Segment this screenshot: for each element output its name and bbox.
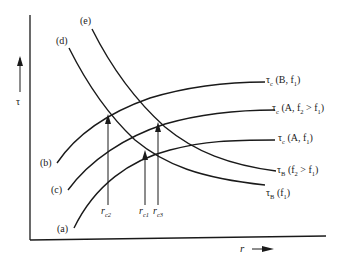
label-tau-c-A-f1: τc (A, f1) [278,133,313,146]
label-tau-c-A-f2: τc (A, f2 > f1) [272,103,324,116]
y-axis-label: τ [16,97,20,107]
x-axis-label: r [240,243,244,254]
marker-label-rc3: rc3 [153,206,163,219]
curve-e [92,29,276,171]
curve-tag-b: (b) [40,158,52,168]
curve-tag-d: (d) [56,36,68,46]
label-tau-B-f1: τB (f1) [266,188,290,201]
marker-rc1-arrowhead-icon [142,150,148,160]
curve-tag-e: (e) [80,16,91,26]
marker-label-rc1: rc1 [139,206,149,219]
curve-d [69,48,265,185]
label-tau-B-f2: τB (f2 > f1) [277,165,318,178]
curve-tag-c: (c) [51,185,62,195]
x-arrowhead-icon [262,246,274,252]
marker-label-rc2: rc2 [101,206,111,219]
curve-tag-a: (a) [57,224,68,234]
x-axis [30,236,326,240]
y-arrowhead-icon [17,56,23,66]
label-tau-c-B-f1: τc (B, f1) [266,75,300,88]
